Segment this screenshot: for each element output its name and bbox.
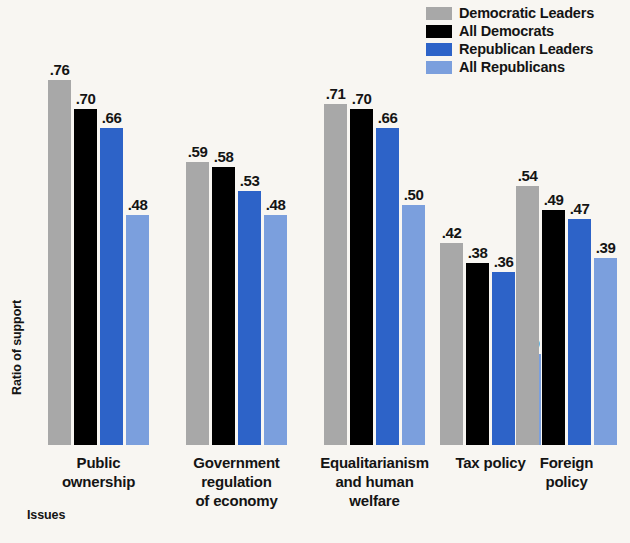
bar[interactable] [100, 128, 123, 445]
bar[interactable] [324, 104, 347, 445]
bar-slot: .53 [238, 65, 261, 445]
bar-value-label: .71 [326, 86, 346, 101]
bar[interactable] [238, 191, 261, 445]
bar-slot: .66 [100, 65, 123, 445]
bar[interactable] [48, 80, 71, 445]
bar-slot: .38 [466, 65, 489, 445]
bar[interactable] [516, 186, 539, 445]
bar-slot: .66 [376, 65, 399, 445]
bar-chart: Democratic LeadersAll DemocratsRepublica… [0, 0, 630, 543]
category-label: Foreignpolicy [476, 453, 630, 491]
plot-area: .76.70.66.48Publicownership.59.58.53.48G… [0, 0, 630, 543]
bar[interactable] [492, 272, 515, 445]
category-label-line: welfare [284, 491, 465, 510]
bar-group-bars: .71.70.66.50 [324, 65, 425, 445]
bar[interactable] [264, 215, 287, 445]
bar-group-bars: .76.70.66.48 [48, 65, 149, 445]
bar-slot: .76 [48, 65, 71, 445]
bar-group-bars: .54.49.47.39 [516, 65, 617, 445]
bar-slot: .58 [212, 65, 235, 445]
bar[interactable] [126, 215, 149, 445]
bar-value-label: .66 [102, 110, 122, 125]
bar-group: .54.49.47.39 [516, 65, 617, 445]
bar-slot: .49 [542, 65, 565, 445]
category-label-line: and human [284, 472, 465, 491]
bar-group: .76.70.66.48 [48, 65, 149, 445]
bar-value-label: .70 [352, 91, 372, 106]
bar-value-label: .50 [404, 187, 424, 202]
bar[interactable] [402, 205, 425, 445]
bar-value-label: .66 [378, 110, 398, 125]
bar-value-label: .53 [240, 173, 260, 188]
bar-value-label: .39 [596, 240, 616, 255]
bar-value-label: .38 [468, 245, 488, 260]
bar-value-label: .48 [266, 197, 286, 212]
bar-slot: .70 [350, 65, 373, 445]
bar-slot: .50 [402, 65, 425, 445]
bar-slot: .71 [324, 65, 347, 445]
bar[interactable] [74, 109, 97, 445]
bar[interactable] [440, 243, 463, 445]
bar-slot: .48 [264, 65, 287, 445]
bar-group: .59.58.53.48 [186, 65, 287, 445]
bar-value-label: .58 [214, 149, 234, 164]
bar-value-label: .54 [518, 168, 538, 183]
bar-value-label: .42 [442, 225, 462, 240]
bar[interactable] [466, 263, 489, 445]
bar[interactable] [376, 128, 399, 445]
bar-value-label: .49 [544, 192, 564, 207]
bar-value-label: .70 [76, 91, 96, 106]
category-label-line: Foreign [476, 453, 630, 472]
bar-slot: .48 [126, 65, 149, 445]
category-label-line: policy [476, 472, 630, 491]
bar-value-label: .59 [188, 144, 208, 159]
bar-slot: .59 [186, 65, 209, 445]
bar[interactable] [542, 210, 565, 445]
bar-group: .71.70.66.50 [324, 65, 425, 445]
y-axis-title: Ratio of support [10, 300, 24, 395]
bar[interactable] [568, 219, 591, 445]
bar[interactable] [350, 109, 373, 445]
bar-group-bars: .59.58.53.48 [186, 65, 287, 445]
x-axis-title: Issues [27, 508, 65, 522]
bar-slot: .54 [516, 65, 539, 445]
bar[interactable] [186, 162, 209, 445]
bar-slot: .70 [74, 65, 97, 445]
bar-slot: .39 [594, 65, 617, 445]
bar-value-label: .36 [494, 254, 514, 269]
bar-value-label: .76 [50, 62, 70, 77]
bar-slot: .36 [492, 65, 515, 445]
bar-slot: .47 [568, 65, 591, 445]
bar[interactable] [594, 258, 617, 445]
bar-value-label: .47 [570, 201, 590, 216]
bar[interactable] [212, 167, 235, 445]
bar-value-label: .48 [128, 197, 148, 212]
bar-slot: .42 [440, 65, 463, 445]
